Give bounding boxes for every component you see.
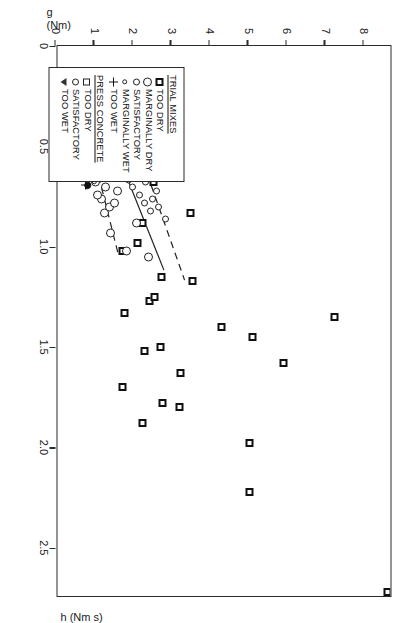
legend-marker-icon — [70, 75, 82, 89]
data-point — [152, 187, 159, 194]
data-point — [158, 399, 166, 407]
x-tick-label: 0 — [37, 43, 49, 49]
legend-entry-label: SATISFACTORY — [70, 89, 80, 160]
data-point — [144, 252, 153, 261]
x-tick — [49, 347, 55, 348]
legend-group-title: PRESS CONCRETE — [95, 75, 105, 173]
legend-group: PRESS CONCRETETOO DRYSATISFACTORYTOO WET — [58, 75, 105, 173]
legend-box: TRIAL MIXESTOO DRYMARGINALLY DRYSATISFAC… — [48, 67, 184, 182]
x-tick-label: 0.5 — [37, 139, 49, 154]
legend-entry: TOO DRY — [81, 75, 93, 173]
x-tick — [49, 247, 55, 248]
data-point — [129, 183, 136, 190]
legend-marker-icon — [108, 75, 120, 89]
legend-entry-label: MARGINALLY WET — [120, 89, 130, 173]
data-point — [105, 228, 114, 237]
data-point — [147, 207, 154, 214]
x-tick-label: 2.0 — [37, 440, 49, 455]
data-point — [186, 209, 194, 217]
data-point — [135, 191, 142, 198]
data-point — [92, 190, 101, 199]
legend-marker-icon — [119, 75, 131, 89]
data-point — [330, 313, 338, 321]
data-point — [279, 359, 287, 367]
data-point — [161, 215, 168, 222]
marker-circle-large-icon — [143, 78, 152, 87]
legend-marker-icon — [131, 75, 143, 89]
data-point — [175, 403, 183, 411]
data-point — [131, 218, 140, 227]
legend-entry-label: TOO DRY — [154, 89, 164, 132]
legend-entry: SATISFACTORY — [131, 75, 143, 173]
legend-marker-icon — [142, 75, 154, 89]
legend-entry: TOO WET — [108, 75, 120, 173]
data-point — [217, 323, 225, 331]
y-tick-label: 1 — [88, 28, 100, 34]
data-point — [140, 199, 147, 206]
x-tick-label: 1.5 — [37, 339, 49, 354]
legend-group-title: TRIAL MIXES — [167, 75, 177, 173]
marker-circle-small-icon — [122, 79, 127, 84]
data-point — [245, 439, 253, 447]
data-point — [140, 347, 148, 355]
legend-entry-label: SATISFACTORY — [131, 89, 141, 160]
data-point — [155, 203, 162, 210]
data-point — [122, 246, 131, 255]
y-tick-label: 0 — [49, 28, 61, 34]
data-point — [156, 343, 164, 351]
legend-entry: SATISFACTORY — [70, 75, 82, 173]
data-point — [113, 186, 122, 195]
legend-entry-label: TOO DRY — [82, 89, 92, 132]
y-tick — [54, 40, 55, 46]
marker-square-icon — [83, 79, 90, 86]
data-point — [176, 369, 184, 377]
x-tick-label: 2.5 — [37, 540, 49, 555]
data-point — [120, 309, 128, 317]
legend-entry-label: MARGINALLY DRY — [143, 89, 153, 172]
y-tick-label: 4 — [203, 28, 215, 34]
data-point — [150, 293, 158, 301]
x-tick — [49, 46, 55, 47]
marker-square-bold-icon — [155, 78, 163, 86]
data-point — [245, 488, 253, 496]
data-point — [149, 195, 156, 202]
legend-entry: TOO WET — [58, 75, 70, 173]
x-tick — [49, 548, 55, 549]
y-tick-label: 5 — [242, 28, 254, 34]
legend-marker-icon — [81, 75, 93, 89]
data-point — [133, 239, 141, 247]
data-point — [101, 182, 110, 191]
data-point — [109, 198, 118, 207]
legend-entry: MARGINALLY DRY — [142, 75, 154, 173]
data-point — [138, 419, 146, 427]
legend-entry-label: TOO WET — [108, 89, 118, 133]
marker-triangle-down-icon — [61, 78, 67, 86]
y-axis-title-line1: g — [46, 6, 70, 19]
data-point — [188, 277, 196, 285]
x-tick — [49, 447, 55, 448]
marker-plus-icon — [109, 78, 118, 87]
y-tick-label: 8 — [357, 28, 369, 34]
data-point — [248, 333, 256, 341]
data-point — [383, 588, 390, 596]
data-point — [157, 273, 165, 281]
legend-entry: MARGINALLY WET — [119, 75, 131, 173]
legend-group: TRIAL MIXESTOO DRYMARGINALLY DRYSATISFAC… — [108, 75, 178, 173]
marker-circle-icon — [133, 79, 140, 86]
y-tick-label: 7 — [319, 28, 331, 34]
legend-marker-icon — [154, 75, 166, 89]
data-point — [118, 383, 126, 391]
legend-entry-label: TOO WET — [59, 89, 69, 133]
y-tick-label: 6 — [280, 28, 292, 34]
legend-entry: TOO DRY — [154, 75, 166, 173]
x-tick-label: 1.0 — [37, 239, 49, 254]
y-tick-label: 2 — [126, 28, 138, 34]
marker-circle-icon — [72, 79, 79, 86]
y-tick-label: 3 — [165, 28, 177, 34]
x-axis-title: h (Nm s) — [60, 611, 102, 623]
legend-marker-icon — [58, 75, 70, 89]
data-point — [84, 181, 91, 188]
